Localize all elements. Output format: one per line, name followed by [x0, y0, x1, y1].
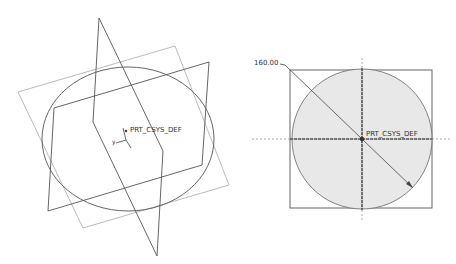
disk-outline[interactable] [42, 67, 214, 211]
top-csys-label: PRT_CSYS_DEF [366, 130, 418, 138]
iso-axis-y-label: y [112, 138, 116, 145]
dimension-label[interactable]: 160.00 [254, 59, 279, 67]
iso-csys-label: PRT_CSYS_DEF [130, 126, 182, 134]
csys-origin-icon[interactable] [360, 137, 364, 141]
datum-plane-front[interactable] [18, 46, 229, 228]
datum-plane-right[interactable] [93, 18, 163, 256]
top-view [252, 58, 452, 222]
csys-icon[interactable] [116, 128, 131, 148]
iso-view [18, 18, 229, 256]
